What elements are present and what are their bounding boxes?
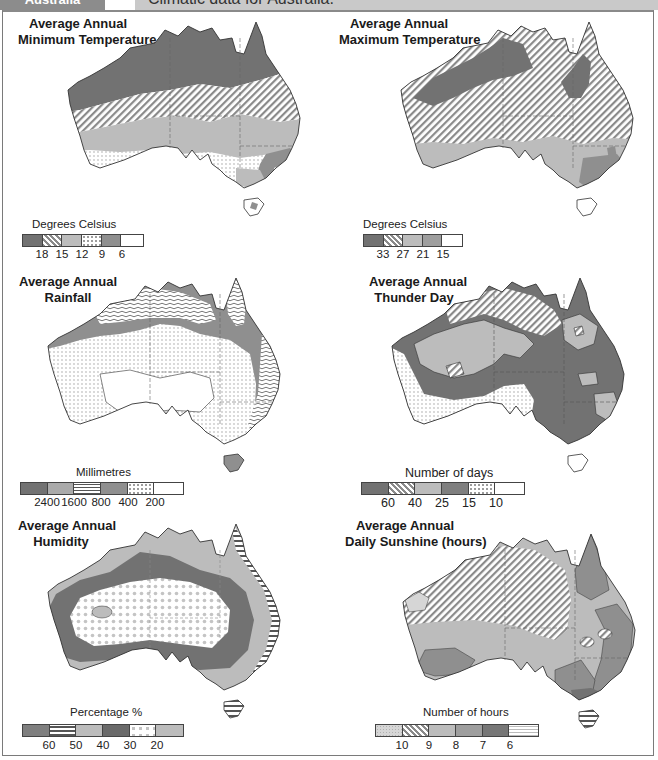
tick: 9	[426, 739, 432, 751]
australia-map-max-temperature	[393, 18, 643, 228]
tick: 33	[377, 248, 390, 260]
panel-rainfall: Average Annual Rainfall Millimetres 2400	[0, 268, 329, 508]
legend-humidity: Percentage % 60 50 40 30 20	[22, 706, 192, 752]
tick: 2400	[34, 496, 60, 508]
panel-sunshine: Average Annual Daily Sunshine (hours) Nu…	[329, 510, 658, 756]
australia-map-rainfall	[40, 274, 290, 484]
panel-max-temperature: Average Annual Maximum Temperature Degre…	[329, 10, 658, 260]
legend-ticks: 60 40 25 15 10	[361, 496, 525, 510]
legend-ticks: 18 15 12 9 6	[22, 248, 144, 262]
swatch-hstripes	[509, 725, 538, 736]
legend-title: Number of days	[405, 466, 493, 480]
tick: 10	[396, 739, 409, 751]
swatch-hatch	[384, 235, 404, 246]
tick: 50	[70, 739, 83, 751]
swatch-darker	[103, 725, 130, 736]
swatch-mid	[102, 235, 122, 246]
swatch-waves	[74, 483, 101, 494]
swatch-hatch	[403, 725, 430, 736]
tick: 25	[435, 496, 449, 510]
tick: 27	[397, 248, 410, 260]
swatch-mid	[456, 725, 483, 736]
tick: 40	[408, 496, 422, 510]
swatch-dots-grey	[376, 725, 403, 736]
tick: 40	[97, 739, 110, 751]
tick: 15	[462, 496, 476, 510]
swatch-dark	[21, 483, 48, 494]
legend-title: Millimetres	[76, 466, 131, 478]
swatch-mid	[442, 483, 469, 494]
australia-map-humidity	[40, 520, 290, 730]
tick: 7	[480, 739, 486, 751]
legend-rainfall: Millimetres 2400 1600 800 400 200	[20, 466, 190, 508]
page-caption: Climatic data for Australia.	[148, 0, 334, 7]
tick: 800	[91, 496, 110, 508]
legend-title: Number of hours	[423, 706, 509, 718]
legend-bar	[375, 724, 539, 737]
tick: 6	[119, 248, 125, 260]
tick: 10	[489, 496, 503, 510]
swatch-white	[154, 483, 183, 494]
tick: 20	[151, 739, 164, 751]
swatch-white	[121, 235, 143, 246]
swatch-dots	[469, 483, 496, 494]
tick: 30	[124, 739, 137, 751]
legend-title: Degrees Celsius	[32, 218, 116, 230]
swatch-dark	[364, 235, 384, 246]
legend-thunder-days: Number of days 60 40 25 15 10	[361, 466, 531, 508]
legend-ticks: 10 9 8 7 6	[375, 739, 539, 753]
legend-min-temperature: Degrees Celsius 18 15 12 9 6	[22, 218, 152, 260]
swatch-hatch	[389, 483, 416, 494]
tick: 8	[453, 739, 459, 751]
legend-ticks: 60 50 40 30 20	[22, 739, 184, 753]
swatch-hatch	[43, 235, 63, 246]
tick: 60	[43, 739, 56, 751]
legend-ticks: 33 27 21 15	[363, 248, 463, 262]
legend-bar	[22, 234, 144, 247]
tick: 12	[76, 248, 89, 260]
tick: 9	[99, 248, 105, 260]
swatch-light	[403, 235, 423, 246]
swatch-mid	[101, 483, 128, 494]
legend-ticks: 2400 1600 800 400 200	[20, 496, 184, 510]
tick: 18	[36, 248, 49, 260]
swatch-bigdots	[130, 725, 157, 736]
swatch-hstripes	[50, 725, 77, 736]
legend-bar	[361, 482, 525, 495]
panel-thunder-days: Average Annual Thunder Day Number of day…	[329, 268, 658, 508]
swatch-dark	[23, 725, 50, 736]
legend-bar	[22, 724, 184, 737]
australia-map-thunder-days	[384, 274, 634, 484]
swatch-dark	[362, 483, 389, 494]
swatch-dots	[82, 235, 102, 246]
swatch-mid	[423, 235, 443, 246]
swatch-white	[495, 483, 524, 494]
australia-map-min-temperature	[60, 18, 310, 228]
tick: 400	[118, 496, 137, 508]
tick: 200	[145, 496, 164, 508]
tick: 60	[381, 496, 395, 510]
section-tab: Australia	[0, 0, 105, 10]
legend-bar	[20, 482, 184, 495]
swatch-light-2	[156, 725, 183, 736]
tick: 15	[56, 248, 69, 260]
swatch-light	[62, 235, 82, 246]
swatch-white	[442, 235, 462, 246]
header-gap	[105, 0, 135, 10]
swatch-light	[48, 483, 75, 494]
legend-title: Percentage %	[70, 706, 142, 718]
legend-sunshine: Number of hours 10 9 8 7 6	[375, 706, 545, 752]
legend-bar	[363, 234, 463, 247]
header-bar: Australia Climatic data for Australia.	[0, 0, 658, 10]
legend-max-temperature: Degrees Celsius 33 27 21 15	[363, 218, 473, 260]
swatch-dark	[483, 725, 510, 736]
swatch-light	[415, 483, 442, 494]
tick: 6	[507, 739, 513, 751]
swatch-light	[76, 725, 103, 736]
tick: 21	[417, 248, 430, 260]
panel-min-temperature: Average Annual Minimum Temperature Degre…	[0, 10, 329, 260]
swatch-dots	[128, 483, 155, 494]
panel-humidity: Average Annual Humidity Percentage % 60 …	[0, 510, 329, 756]
legend-title: Degrees Celsius	[363, 218, 447, 230]
tick: 1600	[61, 496, 87, 508]
